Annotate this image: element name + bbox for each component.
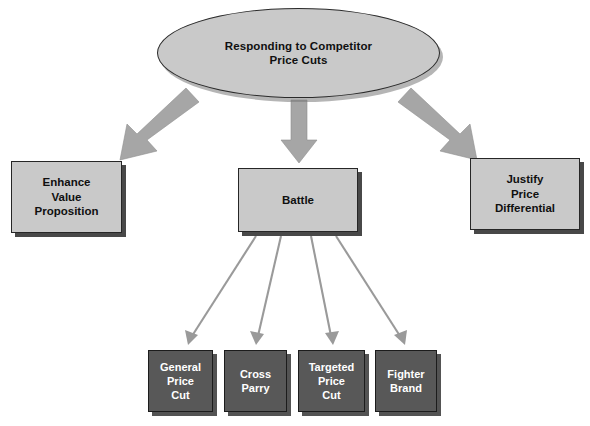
node-label-line-3: Cut	[309, 388, 355, 402]
node-label-line-2: Price	[309, 374, 355, 388]
diagram-canvas: Responding to Competitor Price Cuts Enha…	[0, 0, 590, 426]
node-label: General Price Cut	[160, 360, 201, 402]
node-label: Enhance Value Proposition	[35, 175, 99, 219]
node-targeted-price-cut[interactable]: Targeted Price Cut	[298, 350, 365, 412]
node-battle[interactable]: Battle	[238, 168, 358, 232]
node-justify-price-differential[interactable]: Justify Price Differential	[470, 158, 580, 230]
node-label: Responding to Competitor Price Cuts	[225, 39, 372, 67]
node-label-line-1: Enhance	[35, 175, 99, 190]
node-label-line-3: Cut	[160, 388, 201, 402]
node-label: Targeted Price Cut	[309, 360, 355, 402]
node-label: Fighter Brand	[387, 367, 424, 395]
arrow-root-to-enhance	[120, 88, 199, 160]
node-fighter-brand[interactable]: Fighter Brand	[375, 350, 437, 412]
arrow-battle-to-general	[185, 236, 256, 345]
node-general-price-cut[interactable]: General Price Cut	[148, 350, 213, 412]
node-label-line-2: Parry	[240, 381, 271, 395]
node-label-line-2: Price	[495, 187, 555, 202]
node-label-line-1: Responding to Competitor	[225, 39, 372, 53]
node-label-line-1: Cross	[240, 367, 271, 381]
node-label: Battle	[282, 193, 314, 208]
node-label-line-2: Price Cuts	[225, 53, 372, 67]
arrow-battle-to-targeted	[311, 236, 339, 345]
node-label: Justify Price Differential	[495, 172, 555, 216]
node-label: Cross Parry	[240, 367, 271, 395]
node-label-line-2: Price	[160, 374, 201, 388]
arrow-root-to-battle	[281, 100, 317, 163]
arrow-battle-to-cross	[250, 236, 281, 345]
node-label-line-1: Fighter	[387, 367, 424, 381]
node-enhance-value-proposition[interactable]: Enhance Value Proposition	[11, 161, 122, 233]
node-cross-parry[interactable]: Cross Parry	[224, 350, 287, 412]
node-label-line-1: General	[160, 360, 201, 374]
node-label-line-1: Battle	[282, 193, 314, 208]
arrow-battle-to-fighter	[336, 236, 407, 345]
node-label-line-3: Differential	[495, 201, 555, 216]
node-label-line-3: Proposition	[35, 204, 99, 219]
node-label-line-2: Brand	[387, 381, 424, 395]
node-responding-to-competitor-price-cuts[interactable]: Responding to Competitor Price Cuts	[157, 8, 440, 98]
node-label-line-2: Value	[35, 190, 99, 205]
node-label-line-1: Justify	[495, 172, 555, 187]
arrow-root-to-justify	[398, 88, 477, 160]
node-label-line-1: Targeted	[309, 360, 355, 374]
